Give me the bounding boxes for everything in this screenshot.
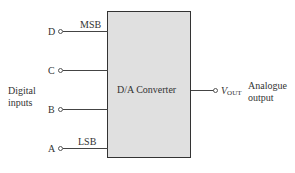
digital-inputs-label-2: inputs <box>8 97 32 108</box>
analogue-output-label-1: Analogue <box>248 80 287 91</box>
pin-d-wire <box>63 31 108 32</box>
lsb-label: LSB <box>78 136 96 147</box>
converter-title: D/A Converter <box>117 84 176 95</box>
pin-b-label: B <box>48 104 55 115</box>
pin-b-wire <box>63 109 108 110</box>
pin-a-label: A <box>48 143 55 154</box>
pin-c-wire <box>63 70 108 71</box>
pin-d-label: D <box>48 26 55 37</box>
digital-inputs-label-1: Digital <box>8 85 36 96</box>
pin-a-wire <box>63 148 108 149</box>
analogue-output-label-2: output <box>248 92 274 103</box>
output-terminal <box>213 88 218 93</box>
msb-label: MSB <box>80 19 101 30</box>
pin-c-label: C <box>48 65 55 76</box>
vout-symbol: VOUT <box>221 85 242 99</box>
output-wire <box>191 90 214 91</box>
